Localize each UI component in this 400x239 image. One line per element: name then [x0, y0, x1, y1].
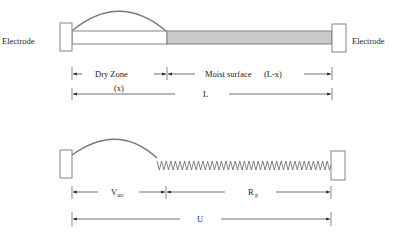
total-length-label: L	[203, 89, 208, 99]
dry-zone-bar	[72, 31, 167, 44]
moist-surface-bar	[167, 31, 332, 44]
arc-model-diagram: Electrode Electrode Dry Zone Moist surfa…	[0, 0, 400, 239]
moist-length-label: (L-x)	[264, 69, 282, 79]
bottom-arc	[72, 139, 157, 158]
left-electrode-label: Electrode	[2, 36, 35, 46]
resistor-spring	[157, 161, 331, 170]
arc-voltage-label: Varc	[111, 187, 124, 198]
right-electrode-label: Electrode	[352, 36, 385, 46]
moist-surface-label: Moist surface	[205, 69, 252, 79]
bottom-right-electrode	[331, 151, 345, 180]
left-electrode	[60, 23, 72, 51]
bottom-left-electrode	[60, 150, 72, 178]
top-panel: Electrode Electrode Dry Zone Moist surfa…	[2, 11, 385, 100]
dry-zone-length-label: (x)	[114, 83, 124, 93]
right-electrode	[332, 24, 346, 52]
dry-zone-label: Dry Zone	[95, 69, 128, 79]
total-voltage-label: U	[197, 214, 203, 224]
bottom-panel: Varc Rp U	[60, 139, 345, 226]
resistance-label: Rp	[248, 187, 258, 198]
top-arc	[73, 11, 166, 31]
